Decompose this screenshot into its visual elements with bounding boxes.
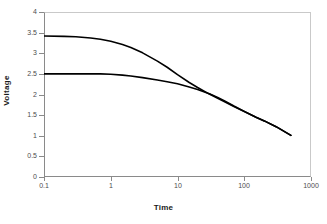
- y-tick: [39, 136, 44, 137]
- curve-upper-curve: [44, 36, 291, 135]
- y-tick-label: 4: [0, 8, 37, 16]
- y-tick-label: 0.5: [0, 152, 37, 160]
- x-tick-label: 1000: [291, 182, 327, 190]
- y-axis-title: Voltage: [2, 61, 11, 121]
- x-tick: [178, 177, 179, 181]
- y-tick-label: 3: [0, 49, 37, 57]
- curve-lower-curve: [44, 74, 291, 135]
- x-tick: [244, 177, 245, 181]
- y-tick: [39, 53, 44, 54]
- y-tick: [39, 95, 44, 96]
- x-tick-label: 0.1: [24, 182, 64, 190]
- x-tick-label: 100: [224, 182, 264, 190]
- chart-curves: [44, 12, 311, 177]
- x-tick-label: 1: [91, 182, 131, 190]
- x-tick: [111, 177, 112, 181]
- y-tick-label: 3.5: [0, 29, 37, 37]
- x-tick: [44, 177, 45, 181]
- y-tick-label: 0: [0, 173, 37, 181]
- series-paths: [44, 36, 291, 135]
- y-tick: [39, 12, 44, 13]
- x-axis-title: Time: [0, 203, 327, 212]
- x-tick-label: 10: [158, 182, 198, 190]
- y-tick: [39, 156, 44, 157]
- y-tick: [39, 33, 44, 34]
- y-tick: [39, 74, 44, 75]
- y-tick: [39, 115, 44, 116]
- y-tick-label: 1: [0, 132, 37, 140]
- chart-container: 00.511.522.533.54 0.11101001000 Time Vol…: [0, 0, 327, 224]
- x-tick: [311, 177, 312, 181]
